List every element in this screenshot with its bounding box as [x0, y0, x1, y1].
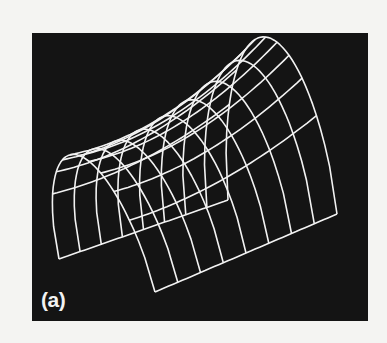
- panel-label: (a): [41, 288, 65, 312]
